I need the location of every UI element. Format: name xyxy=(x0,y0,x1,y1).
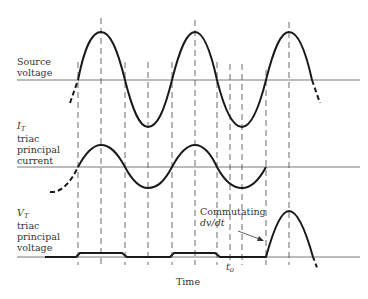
triac-voltage-dash-end xyxy=(313,257,318,270)
current-label-1: triac xyxy=(17,133,39,144)
arrowhead-icon xyxy=(257,236,264,241)
current-label-2: principal xyxy=(17,144,60,155)
source-voltage-dash-end xyxy=(312,80,320,103)
triac-current-dash-start xyxy=(50,167,78,192)
triac-waveform-diagram: Source voltage IT triac principal curren… xyxy=(0,0,368,299)
t0-label: to xyxy=(226,261,234,274)
source-voltage-label: Source xyxy=(17,56,51,67)
voltage-label-1: triac xyxy=(17,220,39,231)
commutating-label: Commutating xyxy=(200,206,266,217)
current-label-3: current xyxy=(17,155,53,166)
voltage-label-3: voltage xyxy=(16,242,53,253)
triac-voltage-waveform xyxy=(45,211,313,257)
x-axis-label: Time xyxy=(176,276,200,287)
source-voltage-dash-start xyxy=(70,80,78,103)
current-symbol: IT xyxy=(16,120,27,133)
voltage-label-2: principal xyxy=(17,231,60,242)
triac-current-waveform xyxy=(78,145,266,188)
source-voltage-label-2: voltage xyxy=(16,67,53,78)
dvdt-label: dv/dt xyxy=(200,217,225,228)
voltage-symbol: VT xyxy=(17,207,30,220)
dashed-time-markers xyxy=(78,18,289,265)
